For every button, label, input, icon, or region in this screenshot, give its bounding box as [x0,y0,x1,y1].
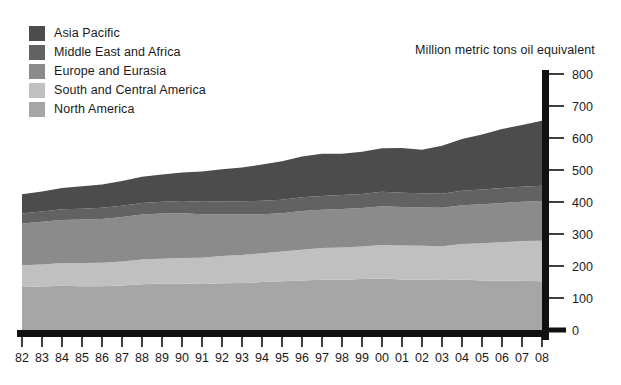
x-axis-tick-label: 01 [395,351,409,365]
x-axis: 8283848586878889909192939495969798990001… [15,330,549,365]
x-axis-tick-label: 90 [175,351,189,365]
x-axis-tick-label: 99 [355,351,369,365]
x-axis-tick-label: 97 [315,351,329,365]
x-axis-tick-label: 04 [455,351,469,365]
x-axis-tick-label: 86 [95,351,109,365]
x-axis-line [17,330,549,337]
x-axis-tick-label: 08 [535,351,549,365]
legend-swatch-icon [29,45,45,60]
legend-item-label: Europe and Eurasia [54,64,166,79]
legend-item-europe-and-eurasia[interactable]: Europe and Eurasia [29,62,206,81]
legend-item-label: Asia Pacific [54,26,120,41]
x-axis-tick-label: 03 [435,351,449,365]
y-axis-tick-label: 600 [572,132,593,146]
y-axis-tick-label: 800 [572,68,593,82]
y-axis-tick-label: 0 [572,324,579,338]
legend-swatch-icon [29,64,45,79]
area-series-north-america [22,278,542,330]
y-axis: 0100200300400500600700800 [542,68,593,341]
x-axis-tick-label: 00 [375,351,389,365]
chart-page: Asia Pacific Middle East and Africa Euro… [0,0,621,385]
legend-item-asia-pacific[interactable]: Asia Pacific [29,24,206,43]
x-axis-tick-label: 91 [195,351,209,365]
x-axis-tick-label: 89 [155,351,169,365]
x-axis-tick-label: 93 [235,351,249,365]
x-axis-tick-label: 85 [75,351,89,365]
x-axis-tick-label: 88 [135,351,149,365]
legend-item-middle-east-and-africa[interactable]: Middle East and Africa [29,43,206,62]
x-axis-tick-label: 02 [415,351,429,365]
y-axis-tick-label: 200 [572,260,593,274]
x-axis-tick-label: 82 [15,351,29,365]
x-axis-tick-label: 92 [215,351,229,365]
x-axis-tick-label: 87 [115,351,129,365]
y-axis-tick-label: 500 [572,164,593,178]
y-axis-tick-label: 300 [572,228,593,242]
legend-swatch-icon [29,26,45,41]
x-axis-tick-label: 95 [275,351,289,365]
chart-areas [22,121,542,330]
legend-swatch-icon [29,83,45,98]
legend-item-north-america[interactable]: North America [29,100,206,119]
y-axis-tick-label: 100 [572,292,593,306]
y-axis-tick-label: 400 [572,196,593,210]
x-axis-tick-label: 06 [495,351,509,365]
legend-item-label: South and Central America [54,83,206,98]
legend-item-label: Middle East and Africa [54,45,181,60]
legend-item-label: North America [54,102,135,117]
x-axis-tick-label: 96 [295,351,309,365]
x-axis-tick-label: 98 [335,351,349,365]
chart-legend: Asia Pacific Middle East and Africa Euro… [29,24,206,119]
x-axis-tick-label: 05 [475,351,489,365]
x-axis-tick-label: 83 [35,351,49,365]
legend-swatch-icon [29,102,45,117]
y-axis-tick-label: 700 [572,100,593,114]
y-axis-line [542,70,549,340]
x-axis-tick-label: 84 [55,351,69,365]
x-axis-tick-label: 07 [515,351,529,365]
legend-item-south-and-central-america[interactable]: South and Central America [29,81,206,100]
x-axis-tick-label: 94 [255,351,269,365]
y-axis-title: Million metric tons oil equivalent [415,43,595,57]
